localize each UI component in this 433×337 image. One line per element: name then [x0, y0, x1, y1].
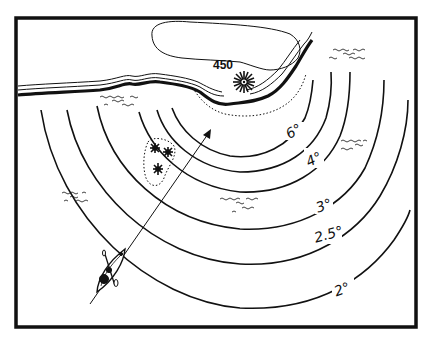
lighthouse-star-icon — [233, 71, 255, 93]
elevation-label: 450 — [213, 58, 233, 72]
wave-mark-1 — [100, 96, 138, 106]
range-arcs — [41, 72, 410, 308]
arc-innermost-1 — [172, 80, 313, 157]
coastline — [18, 32, 312, 104]
wave-mark-3 — [341, 140, 367, 150]
wave-mark-4 — [220, 198, 258, 212]
wave-mark-2 — [329, 49, 365, 59]
arc-3 — [67, 100, 408, 264]
kayak-icon — [97, 249, 125, 292]
rock-asterisk-icon — [150, 143, 173, 175]
arc-2 — [41, 110, 410, 308]
navigation-diagram: 450 6° 4° 3° 2.5° 2° — [0, 0, 433, 337]
